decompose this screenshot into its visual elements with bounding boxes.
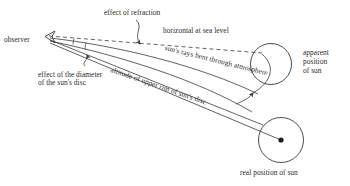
label-observer: observer (4, 36, 30, 45)
horizon-dashed-line (49, 36, 262, 53)
label-real-position-of-sun: real position of sun (240, 169, 298, 178)
real-sun-center-dot (278, 137, 283, 142)
label-effect-of-refraction: effect of refraction (104, 9, 160, 18)
angle-arc-diameter (85, 43, 86, 50)
refraction-leader-arrow (136, 20, 140, 44)
label-effect-of-diameter-line2: of the sun's disc (38, 79, 86, 88)
diameter-leader-arrow (84, 55, 87, 66)
refraction-diagram: observer effect of refraction horizontal… (0, 0, 350, 186)
label-apparent-position-line3: of sun (303, 67, 322, 76)
angle-arc-refraction (73, 39, 74, 45)
apparent-sun-circle (251, 44, 292, 85)
atmosphere-leader-arrow-2 (236, 93, 253, 104)
label-horizontal-at-sea-level: horizontal at sea level (163, 27, 229, 36)
